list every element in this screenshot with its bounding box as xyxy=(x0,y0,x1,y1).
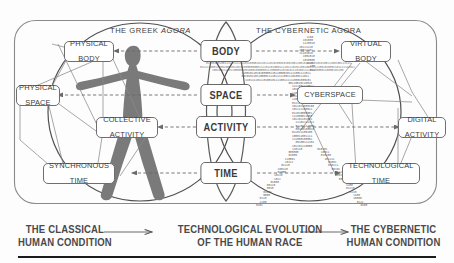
caption-cybernetic: THE CYBERNETIC HUMAN CONDITION xyxy=(346,222,440,248)
caption-evolution: TECHNOLOGICAL EVOLUTION OF THE HUMAN RAC… xyxy=(176,222,324,248)
center-node-body[interactable]: BODY xyxy=(200,40,251,62)
center-node-activity[interactable]: ACTIVITY xyxy=(196,116,256,138)
node-technological-time-line2: TIME xyxy=(348,177,413,185)
node-synchronous-time[interactable]: SYNCHRONOUS TIME xyxy=(43,163,115,184)
caption-classical: THE CLASSICAL HUMAN CONDITION xyxy=(18,222,112,248)
cybernetic-agora-label: THE CYBERNETIC AGORA xyxy=(256,26,361,35)
node-synchronous-time-line1: SYNCHRONOUS xyxy=(49,162,109,170)
diagram-canvas: 1100101000111001010111110100111011110101… xyxy=(0,0,454,263)
node-virtual-body-line2: BODY xyxy=(350,55,382,63)
node-virtual-body[interactable]: VIRTUAL BODY xyxy=(341,41,391,62)
node-cyberspace-label: CYBERSPACE xyxy=(304,91,355,99)
node-physical-space-line1: PHYSICAL xyxy=(19,84,57,92)
node-digital-activity[interactable]: DIGITAL ACTIVITY xyxy=(398,117,446,138)
center-node-space[interactable]: SPACE xyxy=(200,84,251,106)
bottom-rule xyxy=(18,256,436,258)
caption-classical-line1: THE CLASSICAL xyxy=(18,222,112,235)
caption-classical-line2: HUMAN CONDITION xyxy=(18,235,112,248)
node-physical-body-line2: BODY xyxy=(70,55,108,63)
node-collective-activity-line1: COLLECTIVE xyxy=(103,116,151,124)
node-physical-space[interactable]: PHYSICAL SPACE xyxy=(16,85,60,106)
node-technological-time-line1: TECHNOLOGICAL xyxy=(348,162,413,170)
caption-cybernetic-line1: THE CYBERNETIC xyxy=(346,222,440,235)
node-physical-body[interactable]: PHYSICAL BODY xyxy=(64,41,114,62)
node-collective-activity[interactable]: COLLECTIVE ACTIVITY xyxy=(96,117,158,138)
center-node-time[interactable]: TIME xyxy=(200,162,251,184)
node-technological-time[interactable]: TECHNOLOGICAL TIME xyxy=(342,163,420,184)
caption-evolution-line2: OF THE HUMAN RACE xyxy=(176,235,324,248)
node-cyberspace[interactable]: CYBERSPACE xyxy=(297,86,363,104)
node-physical-body-line1: PHYSICAL xyxy=(70,40,108,48)
node-synchronous-time-line2: TIME xyxy=(49,177,109,185)
node-physical-space-line2: SPACE xyxy=(19,99,57,107)
caption-cybernetic-line2: HUMAN CONDITION xyxy=(346,235,440,248)
node-virtual-body-line1: VIRTUAL xyxy=(350,40,382,48)
greek-agora-label: THE GREEK AGORA xyxy=(110,26,191,35)
node-digital-activity-line1: DIGITAL xyxy=(405,116,439,124)
node-digital-activity-line2: ACTIVITY xyxy=(405,131,439,139)
caption-evolution-line1: TECHNOLOGICAL EVOLUTION xyxy=(176,222,324,235)
node-collective-activity-line2: ACTIVITY xyxy=(103,131,151,139)
